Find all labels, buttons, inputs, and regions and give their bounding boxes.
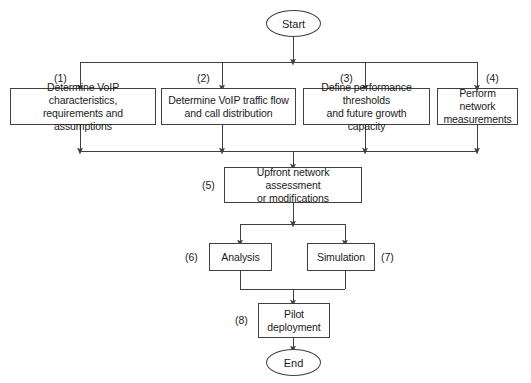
- terminal-end: End: [266, 349, 321, 376]
- terminal-end-label: End: [284, 357, 304, 369]
- terminal-start: Start: [266, 10, 321, 37]
- step-number-2: (2): [197, 72, 210, 84]
- process-box-analysis-label: Analysis: [218, 251, 262, 264]
- process-box-5: Upfront network assessment or modificati…: [224, 167, 362, 203]
- process-box-1: Determine VoIP characteristics, requirem…: [10, 88, 156, 125]
- process-box-analysis: Analysis: [209, 243, 272, 271]
- process-box-3: Define performance thresholds and future…: [303, 88, 430, 125]
- step-number-3: (3): [340, 72, 353, 84]
- step-number-7: (7): [381, 251, 394, 263]
- step-number-8: (8): [235, 314, 248, 326]
- step-number-1: (1): [54, 72, 67, 84]
- process-box-2: Determine VoIP traffic flow and call dis…: [161, 88, 296, 125]
- process-box-4: Perform network measurements: [437, 88, 518, 125]
- process-box-pilot-deployment: Pilot deployment: [258, 303, 330, 338]
- step-number-5: (5): [202, 179, 215, 191]
- process-box-1-label: Determine VoIP characteristics, requirem…: [11, 81, 155, 133]
- terminal-start-label: Start: [282, 18, 305, 30]
- step-number-6: (6): [185, 251, 198, 263]
- flowchart-canvas: Start End Determine VoIP characteristics…: [0, 0, 531, 383]
- step-number-4: (4): [486, 72, 499, 84]
- process-box-4-label: Perform network measurements: [438, 87, 517, 126]
- process-box-2-label: Determine VoIP traffic flow and call dis…: [165, 94, 292, 120]
- process-box-5-label: Upfront network assessment or modificati…: [225, 166, 361, 205]
- process-box-3-label: Define performance thresholds and future…: [304, 81, 429, 133]
- process-box-simulation-label: Simulation: [314, 251, 368, 264]
- process-box-pilot-deployment-label: Pilot deployment: [264, 308, 323, 334]
- process-box-simulation: Simulation: [307, 243, 375, 271]
